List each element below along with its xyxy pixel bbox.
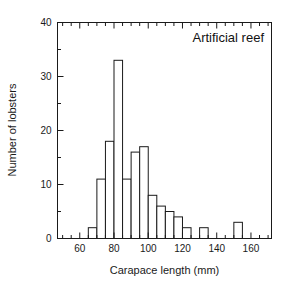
- histogram-bar: [131, 152, 140, 238]
- y-tick-label: 40: [40, 17, 52, 28]
- histogram-bar: [123, 179, 132, 238]
- y-axis-title: Number of lobsters: [6, 83, 18, 176]
- histogram-bar: [105, 141, 114, 238]
- histogram-bar: [97, 179, 106, 238]
- histogram-bar: [174, 217, 183, 239]
- x-axis-title: Carapace length (mm): [110, 264, 219, 276]
- histogram-bar: [114, 60, 123, 238]
- y-tick-label: 30: [40, 71, 52, 82]
- chart-canvas: Artificial reef Carapace length (mm) Num…: [0, 0, 288, 287]
- x-tick-label: 160: [243, 243, 260, 254]
- histogram-bar: [234, 222, 243, 238]
- y-tick-label: 20: [40, 125, 52, 136]
- histogram-bar: [140, 147, 149, 239]
- panel-title: Artificial reef: [192, 30, 264, 45]
- histogram-bar: [165, 212, 174, 239]
- x-tick-label: 120: [174, 243, 191, 254]
- x-tick-label: 80: [108, 243, 120, 254]
- histogram-bar: [182, 228, 191, 239]
- histogram-bar: [157, 206, 166, 238]
- x-tick-label: 100: [140, 243, 157, 254]
- histogram-bar: [88, 228, 97, 239]
- histogram-bar: [200, 228, 209, 239]
- x-tick-label: 60: [74, 243, 86, 254]
- x-tick-label: 140: [208, 243, 225, 254]
- histogram-bar: [148, 195, 157, 238]
- y-tick-label: 10: [40, 179, 52, 190]
- y-tick-label: 0: [46, 233, 52, 244]
